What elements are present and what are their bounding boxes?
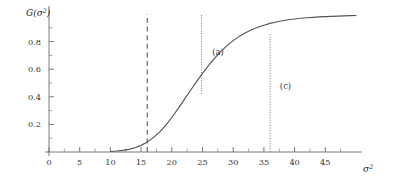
- x-tick-label: 0: [46, 157, 51, 167]
- y-axis-minor-ticks: [49, 28, 53, 138]
- x-axis-title: σ2: [363, 163, 373, 174]
- x-tick-label: 25: [197, 157, 207, 167]
- chart-figure: 051015202530354045 0.20.40.60.8 (a)(c) G…: [0, 0, 394, 181]
- y-axis-title: G(σ2): [26, 7, 51, 18]
- y-tick-label: 0.8: [28, 37, 41, 47]
- curve-annotations: (a)(c): [212, 47, 291, 90]
- y-tick-label: 0.2: [28, 119, 41, 129]
- x-tick-label: 15: [136, 157, 146, 167]
- y-tick-label: 0.4: [28, 92, 41, 102]
- x-tick-label: 40: [289, 157, 299, 167]
- x-tick-label: 10: [105, 157, 115, 167]
- x-tick-label: 35: [259, 157, 269, 167]
- x-tick-label: 5: [77, 157, 82, 167]
- annotation-label: (c): [280, 81, 291, 91]
- sigmoid-chart: 051015202530354045 0.20.40.60.8 (a)(c) G…: [0, 0, 394, 181]
- x-tick-label: 30: [228, 157, 238, 167]
- y-tick-label: 0.6: [28, 64, 41, 74]
- x-tick-label: 20: [167, 157, 177, 167]
- vertical-marker-lines: [147, 14, 270, 152]
- y-axis-tick-labels: 0.20.40.60.8: [28, 37, 41, 130]
- annotation-label: (a): [212, 47, 224, 57]
- x-tick-label: 45: [320, 157, 330, 167]
- x-axis-tick-labels: 051015202530354045: [46, 157, 330, 167]
